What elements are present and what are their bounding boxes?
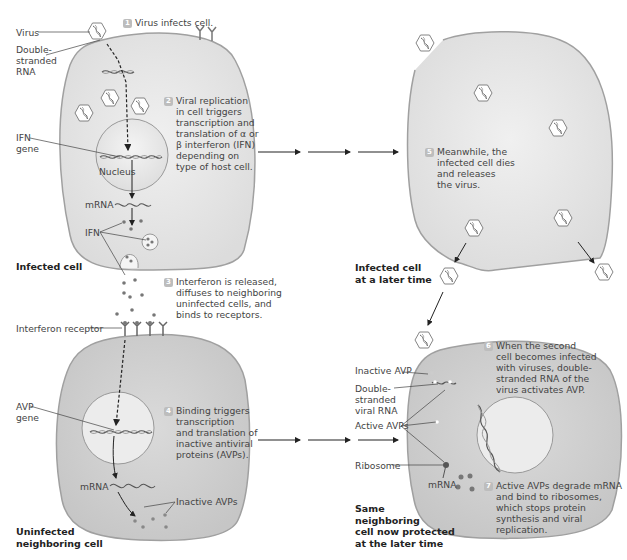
step-badge: 6	[484, 342, 493, 351]
step-5: 5Meanwhile, the infected cell dies and r…	[425, 146, 515, 190]
step-badge: 5	[425, 148, 434, 157]
step-badge: 2	[164, 97, 173, 106]
step-3: 3Interferon is released, diffuses to nei…	[164, 276, 282, 320]
step-7: 7Active AVPs degrade mRNA and bind to ri…	[484, 480, 622, 535]
mrna-label: mRNA	[80, 481, 109, 492]
step-badge: 7	[484, 482, 493, 491]
diagram-artwork	[0, 0, 627, 560]
virus-label: Virus	[16, 27, 39, 38]
step-6: 6When the second cell becomes infected w…	[484, 340, 597, 395]
step-1: 1Virus infects cell.	[123, 17, 213, 28]
ifn-gene-label: IFN gene	[16, 132, 39, 154]
avp-gene-label: AVP gene	[16, 401, 39, 423]
inactive-avps-label: Inactive AVPs	[176, 496, 238, 507]
uninfected-cell-caption: Uninfected neighboring cell	[16, 526, 103, 549]
step-2: 2Viral replication in cell triggers tran…	[164, 95, 258, 172]
step-badge: 3	[164, 278, 173, 287]
nucleus-label: Nucleus	[99, 166, 136, 177]
infected-cell-caption: Infected cell	[16, 261, 82, 273]
step-badge: 1	[123, 19, 132, 28]
step-badge: 4	[164, 407, 173, 416]
viral-dsrna-label: Double- stranded viral RNA	[355, 383, 397, 416]
protected-cell-caption: Same neighboring cell now protected at t…	[355, 503, 455, 549]
ifn-label: IFN	[85, 227, 100, 238]
ribosome-label: Ribosome	[355, 460, 400, 471]
later-cell-caption: Infected cell at a later time	[355, 262, 432, 285]
step-4: 4Binding triggers transcription and tran…	[164, 405, 257, 460]
active-avps-label: Active AVPs	[355, 420, 409, 431]
interferon-receptor-label: Interferon receptor	[16, 323, 103, 334]
released-interferon	[115, 278, 156, 317]
dsrna-label: Double- stranded RNA	[16, 44, 57, 77]
inactive-avp-label: Inactive AVP	[355, 365, 412, 376]
mrna-label: mRNA	[85, 199, 114, 210]
mrna-label: mRNA	[428, 479, 457, 490]
